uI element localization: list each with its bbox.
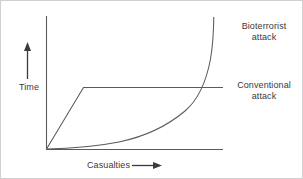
y-axis-label: Time: [12, 82, 46, 93]
annotation-bioterrorist-line2: attack: [229, 32, 299, 43]
series-bioterrorist-attack: [47, 17, 214, 149]
x-axis-label: Casualties: [87, 160, 130, 171]
annotation-conventional-attack: Conventional attack: [227, 80, 301, 102]
annotation-bioterrorist-line1: Bioterrorist: [242, 21, 287, 31]
chart-figure: Time Casualties Bioterrorist attack Conv…: [0, 0, 303, 179]
annotation-bioterrorist-attack: Bioterrorist attack: [229, 21, 299, 43]
annotation-conventional-line1: Conventional: [237, 80, 291, 90]
annotation-conventional-line2: attack: [227, 91, 301, 102]
up-arrow-icon: [24, 42, 31, 79]
right-arrow-icon: [132, 162, 162, 169]
